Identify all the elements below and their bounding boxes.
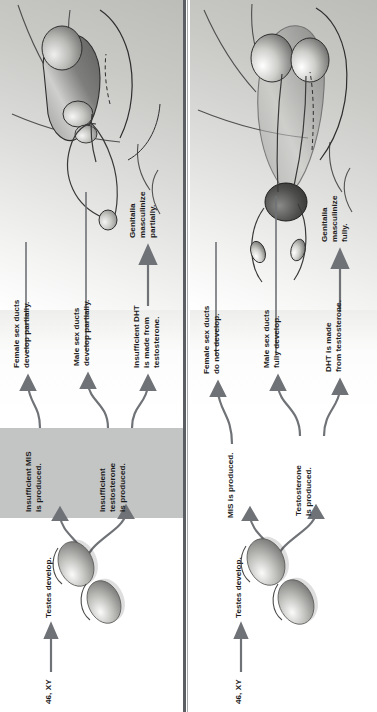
panel-divider-highlight xyxy=(187,0,188,712)
panel-divider xyxy=(183,0,186,712)
panel-partial: 46, XY Testes develop. Insufficient MIS … xyxy=(0,0,186,712)
karyotype-label-normal: 46, XY xyxy=(234,679,244,704)
effect-female-ducts-partial: Female sex ducts develop partially. xyxy=(12,300,32,368)
figure-canvas: 46, XY Testes develop. Insufficient MIS … xyxy=(0,0,377,712)
cause-dht-normal: DHT is made from testosterone. xyxy=(324,300,344,372)
cause-mis-normal: MIS is produced. xyxy=(226,452,236,518)
cause-testosterone-partial: Insufficient testosterone is produced. xyxy=(98,463,129,512)
karyotype-label-partial: 46, XY xyxy=(44,679,54,704)
panel-normal: 46, XY Testes develop. MIS is produced. … xyxy=(190,0,377,712)
effect-male-ducts-partial: Male sex ducts develop partially. xyxy=(72,300,92,366)
effect-genitalia-partial: Genitalia masculinize partially. xyxy=(128,192,159,238)
effect-genitalia-normal: Genitalia masculinize fully. xyxy=(320,196,351,242)
cause-dht-partial: Insufficient DHT is made from testostero… xyxy=(132,305,163,368)
cause-mis-partial: Insufficient MIS is produced. xyxy=(24,451,44,512)
effect-male-ducts-normal: Male sex ducts fully develop. xyxy=(262,310,282,368)
gonad-label-partial: Testes develop. xyxy=(44,557,54,618)
cause-testosterone-normal: Testosterone is produced. xyxy=(294,465,314,516)
effect-female-ducts-normal: Female sex ducts do not develop. xyxy=(202,306,222,374)
gonad-label-normal: Testes develop. xyxy=(234,557,244,618)
